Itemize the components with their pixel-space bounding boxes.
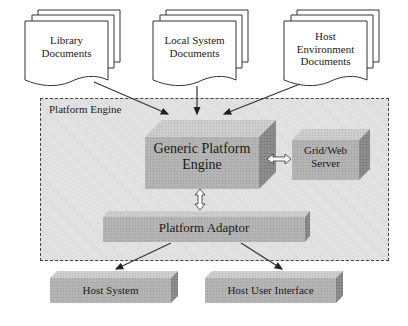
local-system-documents-label: Local System Documents [153,34,236,59]
label-line: Documents [284,55,367,68]
host-system-label: Host System [50,284,171,297]
arrow-host-env-to-engine [224,84,300,114]
generic-platform-engine-label: Generic Platform Engine [145,141,259,173]
engine-grid-bidirectional-arrow [267,154,291,164]
architecture-diagram: Platform Engine [0,0,408,326]
label-line: Documents [153,47,236,60]
label-line: Library [25,34,108,47]
host-environment-documents-label: Host Environment Documents [284,30,367,68]
host-user-interface-label: Host User Interface [205,284,336,297]
platform-adaptor-label: Platform Adaptor [103,221,305,236]
arrow-adaptor-to-host-system [116,243,171,269]
label-line: Documents [25,47,108,60]
label-line: Grid/Web [292,144,359,157]
engine-adaptor-bidirectional-arrow [195,189,205,210]
label-line: Generic Platform [145,141,259,157]
library-documents-label: Library Documents [25,34,108,59]
grid-web-server-label: Grid/Web Server [292,144,359,169]
label-line: Server [292,157,359,170]
arrow-library-to-engine [94,82,168,114]
label-line: Local System [153,34,236,47]
label-line: Engine [145,157,259,173]
arrow-adaptor-to-host-ui [241,243,282,269]
label-line: Host [284,30,367,43]
label-line: Environment [284,43,367,56]
